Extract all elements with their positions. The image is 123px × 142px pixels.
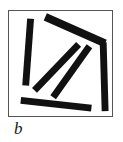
figure-panel: b [0, 0, 123, 142]
bar-left-vertical [26, 19, 31, 86]
stimulus-frame [8, 10, 113, 117]
bar-right-vertical [103, 42, 105, 111]
bar-canvas [9, 11, 112, 116]
bar-group [21, 17, 105, 111]
bar-bottom-horizontal [21, 100, 92, 108]
panel-label: b [14, 119, 23, 139]
bar-top-diagonal [45, 17, 105, 43]
